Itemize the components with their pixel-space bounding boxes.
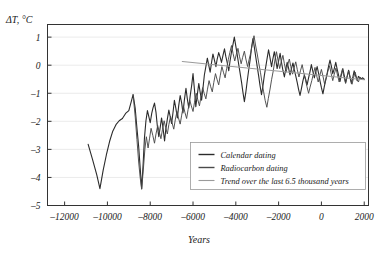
y-tick-label: –4 (30, 173, 41, 183)
chart-legend: Calendar datingRadiocarbon datingTrend o… (191, 143, 366, 190)
legend-label: Radiocarbon dating (220, 164, 288, 173)
x-tick-label: 0 (319, 212, 324, 222)
y-tick-label: –1 (30, 89, 41, 99)
x-tick-label: 2000 (355, 212, 374, 222)
y-tick-label: –5 (30, 201, 41, 211)
x-tick-label: –12000 (49, 212, 79, 222)
y-axis-title: ΔT, °C (5, 14, 33, 25)
x-axis-title: Years (188, 234, 210, 245)
y-tick-label: 1 (36, 33, 41, 43)
y-tick-label: 0 (36, 61, 41, 71)
x-tick-label: –10000 (92, 212, 122, 222)
x-tick-label: –6000 (180, 212, 205, 222)
x-tick-label: –4000 (223, 212, 248, 222)
chart-figure: –12000–10000–8000–6000–4000–20000200010–… (0, 0, 388, 253)
y-tick-label: –2 (30, 117, 41, 127)
x-tick-label: –8000 (137, 212, 162, 222)
legend-label: Trend over the last 6.5 thousand years (221, 177, 349, 186)
x-tick-label: –2000 (266, 212, 291, 222)
legend-label: Calendar dating (221, 151, 276, 160)
chart-canvas: –12000–10000–8000–6000–4000–20000200010–… (0, 0, 388, 253)
y-tick-label: –3 (30, 145, 41, 155)
